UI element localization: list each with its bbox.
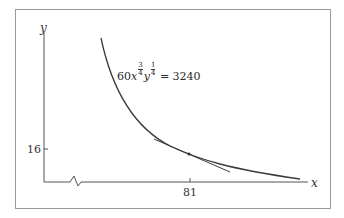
isoquant-curve (101, 38, 300, 179)
eq-exp-y: 14 (151, 62, 155, 77)
x-axis (44, 176, 308, 186)
tangent-line (154, 139, 230, 172)
eq-var-x: x (131, 70, 137, 83)
curve-equation: 60x34y14 = 3240 (117, 62, 201, 82)
eq-rhs: = 3240 (160, 70, 201, 83)
eq-coefficient: 60 (117, 70, 131, 83)
x-axis-label: x (311, 177, 318, 189)
eq-var-y: y (144, 70, 150, 83)
y-tick-label: 16 (27, 144, 41, 155)
eq-exp-x: 34 (138, 62, 142, 77)
tangent-point (187, 152, 190, 155)
plot-area (0, 0, 344, 218)
x-tick-label: 81 (183, 187, 197, 198)
y-axis-label: y (40, 22, 47, 34)
